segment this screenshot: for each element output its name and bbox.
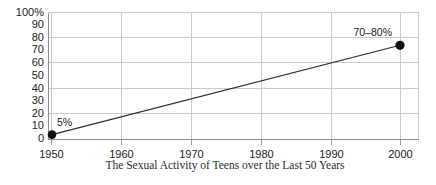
y-tick-label-0: 0	[38, 132, 44, 144]
y-tick-label-40: 40	[32, 82, 44, 94]
y-tick-label-60: 60	[32, 56, 44, 68]
y-tick-label-100: 100%	[16, 6, 44, 18]
line-chart: 100% 90 80 70 60 50 40 30 20 10 0 1950 1…	[0, 0, 436, 185]
x-tick-label-1950: 1950	[39, 148, 63, 160]
y-tick-label-70: 70	[32, 43, 44, 55]
chart-container: 100% 90 80 70 60 50 40 30 20 10 0 1950 1…	[0, 0, 436, 185]
y-tick-label-30: 30	[32, 94, 44, 106]
x-tick-label-2000: 2000	[388, 148, 412, 160]
y-tick-label-20: 20	[32, 107, 44, 119]
annotation-left-point: 5%	[57, 116, 72, 128]
chart-caption: The Sexual Activity of Teens over the La…	[105, 159, 345, 172]
y-tick-label-90: 90	[32, 18, 44, 30]
y-tick-label-80: 80	[32, 31, 44, 43]
y-tick-label-10: 10	[32, 119, 44, 131]
y-tick-label-50: 50	[32, 69, 44, 81]
data-point-2000	[395, 41, 404, 50]
annotation-right-point: 70–80%	[353, 26, 392, 38]
data-point-1950	[48, 130, 57, 139]
